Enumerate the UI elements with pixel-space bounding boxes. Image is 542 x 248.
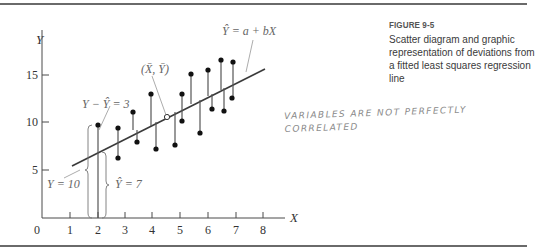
x-axis-label: X: [289, 210, 299, 225]
mean-point-label: (X̄, Ȳ): [141, 62, 169, 76]
y-axis-label: Y: [36, 32, 45, 47]
y-tick-label: 15: [26, 68, 38, 82]
residual-stems: [98, 60, 233, 218]
y-tick-label: 5: [32, 163, 38, 177]
predicted-value-label: Ŷ = 7: [115, 177, 143, 191]
y-tick-label: 10: [26, 115, 38, 129]
x-tick-label: 1: [67, 223, 73, 237]
figure-number: FIGURE 9-5: [389, 19, 517, 30]
predicted-brace: [102, 152, 109, 218]
x-tick-label: 2: [95, 223, 101, 237]
x-tick-label: 3: [122, 223, 128, 237]
regression-equation-label: Ŷ = a + bX: [222, 24, 277, 38]
figure-caption: FIGURE 9-5 Scatter diagram and graphic r…: [389, 19, 539, 85]
regression-label-leader: [246, 40, 253, 72]
mean-point-leader: [152, 76, 166, 115]
x-tick-label: 4: [149, 223, 155, 237]
x-tick-label: 6: [205, 223, 211, 237]
mean-point-marker: [164, 114, 169, 119]
x-tick-label: 7: [233, 223, 239, 237]
x-tick-label: 8: [260, 223, 266, 237]
caption-text: Scatter diagram and graphic representati…: [389, 33, 539, 85]
observed-brace: [85, 125, 92, 218]
x-tick-label: 5: [177, 223, 183, 237]
x-tick-label: 0: [34, 223, 40, 237]
residual-label: Y − Ŷ = 3: [82, 97, 130, 111]
observed-value-label: Y = 10: [47, 177, 80, 191]
